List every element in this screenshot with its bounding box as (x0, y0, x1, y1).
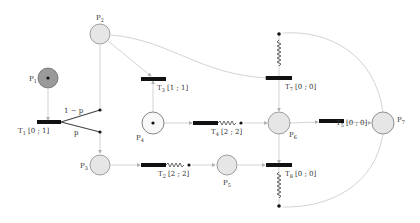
petri-net-diagram: 1 − p p P1 P2 P3 P4 P5 (0, 0, 420, 223)
token-icon (151, 121, 154, 124)
branch-dot-upper (98, 108, 101, 111)
place-p5[interactable]: P5 (217, 155, 237, 188)
svg-text:P2: P2 (96, 14, 104, 23)
place-p4[interactable]: P4 (136, 112, 164, 143)
probabilistic-branches: 1 − p p (61, 107, 102, 137)
transition-t4[interactable]: T4 [2 ; 2] (193, 121, 243, 137)
svg-text:T8 [0 ; 0]: T8 [0 ; 0] (285, 170, 317, 179)
svg-text:P6: P6 (289, 131, 297, 140)
svg-text:P4: P4 (136, 134, 144, 143)
transition-t5[interactable]: T5 [0 ; 0] (319, 119, 368, 128)
transition-t1[interactable]: T1 [0 ; 1] (18, 120, 61, 136)
svg-text:T4 [2 ; 2]: T4 [2 ; 2] (211, 128, 243, 137)
svg-text:T7 [0 ; 0]: T7 [0 ; 0] (285, 83, 317, 92)
spring-t2 (166, 163, 184, 167)
place-p2[interactable]: P2 (90, 14, 110, 44)
transition-t2[interactable]: T2 [2 ; 2] (141, 163, 190, 179)
transition-t3[interactable]: T3 [1 ; 1] (141, 77, 189, 93)
prob-upper-label: 1 − p (64, 107, 84, 115)
arc-p7-t7 (283, 33, 383, 112)
svg-text:P1: P1 (29, 75, 37, 84)
svg-text:T2 [2 ; 2]: T2 [2 ; 2] (158, 170, 190, 179)
svg-text:P7: P7 (397, 116, 405, 125)
svg-text:T1 [0 ; 1]: T1 [0 ; 1] (18, 127, 50, 136)
place-p1[interactable]: P1 (29, 68, 58, 88)
place-p3[interactable]: P3 (80, 155, 110, 175)
svg-text:P3: P3 (80, 162, 88, 171)
svg-text:T3 [1 ; 1]: T3 [1 ; 1] (157, 84, 189, 93)
transition-t7[interactable]: T7 [0 ; 0] (266, 76, 317, 92)
svg-text:P5: P5 (223, 179, 231, 188)
place-p7[interactable]: P7 (372, 112, 405, 134)
transition-t8[interactable]: T8 [0 ; 0] (266, 163, 317, 179)
place-p6[interactable]: P6 (268, 112, 297, 140)
prob-lower-label: p (74, 129, 79, 137)
spring-t4 (218, 121, 236, 125)
token-icon (46, 76, 49, 79)
branch-dot-lower (98, 130, 101, 133)
arc-p2-t3 (108, 41, 151, 76)
arc-p2-t7 (111, 35, 268, 78)
arc-p6-t5 (290, 122, 318, 123)
